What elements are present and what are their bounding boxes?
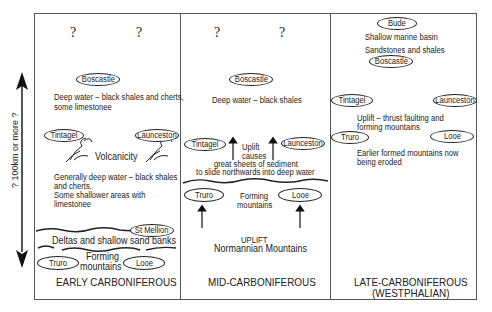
place-tintagel: Tintagel [331,94,373,107]
deltas-text: Deltas and shallow sand banks [52,236,176,246]
deep-water-text: Deep water – black shales and cherts, [54,92,184,102]
place-tintagel: Tintagel [184,138,226,151]
place-truro: Truro [184,188,224,202]
general-text: limestonee [54,199,91,209]
place-truro: Truro [37,256,79,270]
question-mark: ? [70,28,76,38]
place-bude: Bude [377,17,417,30]
deep-water-text: some limestonee [54,102,112,112]
volcanicity-label: Volcanicity [95,152,138,162]
place-launceston: Launceston [135,129,179,142]
place-looe: Looe [278,188,322,202]
deep-water-text: Deep water – black shales [212,95,302,105]
scale-label: ? 100km or more ? [10,112,20,188]
shallow-text: Shallow marine basin [365,32,438,42]
place-launceston: Launceston [433,94,477,107]
question-mark: ? [279,28,285,38]
question-mark: ? [136,28,142,38]
place-boscastle: Boscastle [229,73,273,86]
panel-title-early: EARLY CARBONIFEROUS [56,276,177,288]
sandstones-text: Sandstones and shales [365,45,445,55]
wavy-line-mid [183,179,328,183]
uplift-text: forming mountains [357,122,420,132]
place-looe: Looe [123,256,165,270]
place-launceston: Launceston [281,137,325,150]
forming-text: mountains [237,200,272,210]
normannian-text: Normannian Mountains [214,244,307,254]
forming-text: mountains [80,262,122,272]
sheets-text: to slide northwards into deep water [196,167,315,177]
place-boscastle: Boscastle [369,55,413,68]
panel-subtitle-late: (WESTPHALIAN) [372,287,450,299]
panel-title-mid: MID-CARBONIFEROUS [208,276,316,288]
place-looe: Looe [430,130,474,143]
place-tintagel: Tintagel [44,129,84,142]
question-mark: ? [214,28,220,38]
eroded-text: being eroded [357,157,402,167]
place-boscastle: Boscastle [76,73,120,86]
place-truro: Truro [331,131,369,144]
